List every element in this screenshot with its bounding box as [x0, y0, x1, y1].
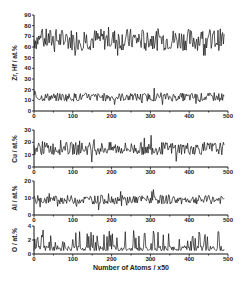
y-tick-label: 10 [24, 195, 31, 201]
x-tick-label: 300 [145, 113, 156, 119]
x-tick-label: 100 [68, 113, 79, 119]
panel-3: 010200100200300400500 [24, 178, 233, 223]
y-tick-label: 60 [24, 44, 31, 50]
series-O [34, 230, 224, 251]
series-Al [34, 190, 224, 210]
y-tick-label: 90 [24, 12, 31, 18]
x-tick-label: 0 [32, 256, 36, 262]
x-tick-label: 300 [145, 217, 156, 223]
y-tick-label: 30 [24, 127, 31, 133]
panel2-ylabel: Cu / at.% [11, 135, 18, 163]
y-tick-label: 0 [28, 164, 32, 170]
x-tick-label: 400 [184, 217, 195, 223]
x-tick-label: 0 [32, 217, 36, 223]
x-tick-label: 300 [145, 256, 156, 262]
y-tick-label: 20 [24, 139, 31, 145]
x-tick-label: 200 [107, 256, 118, 262]
x-tick-label: 500 [223, 256, 234, 262]
y-tick-label: 0 [28, 212, 32, 218]
y-tick-label: 70 [24, 33, 31, 39]
x-tick-label: 500 [223, 113, 234, 119]
x-tick-label: 100 [68, 169, 79, 175]
y-tick-label: 20 [24, 87, 31, 93]
x-tick-label: 300 [145, 169, 156, 175]
series-Cu [34, 135, 224, 162]
y-tick-label: 30 [24, 76, 31, 82]
y-tick-label: 10 [24, 97, 31, 103]
y-tick-label: 4 [28, 223, 32, 229]
panel-2: 01020300100200300400500 [24, 127, 233, 175]
x-axis-label: Number of Atoms / x50 [93, 264, 169, 271]
x-tick-label: 400 [184, 256, 195, 262]
x-tick-label: 100 [68, 217, 79, 223]
y-tick-label: 10 [24, 152, 31, 158]
y-tick-label: 0 [28, 251, 32, 257]
y-tick-label: 0 [28, 108, 32, 114]
y-tick-label: 50 [24, 55, 31, 61]
y-tick-label: 40 [24, 65, 31, 71]
x-tick-label: 400 [184, 169, 195, 175]
x-tick-label: 0 [32, 113, 36, 119]
y-tick-label: 20 [24, 178, 31, 184]
panel4-ylabel: O / at.% [11, 228, 18, 252]
figure: 0102030405060708090010020030040050001020… [0, 0, 246, 289]
x-tick-label: 200 [107, 217, 118, 223]
y-tick-label: 2 [28, 237, 32, 243]
panel1-ylabel: Zr, Hf / at.% [11, 45, 19, 81]
x-tick-label: 200 [107, 169, 118, 175]
x-tick-label: 0 [32, 169, 36, 175]
x-tick-label: 100 [68, 256, 79, 262]
x-tick-label: 500 [223, 169, 234, 175]
x-tick-label: 500 [223, 217, 234, 223]
x-tick-label: 400 [184, 113, 195, 119]
series-Hf [34, 88, 224, 105]
panel3-ylabel: Al / at.% [11, 185, 18, 211]
series-Zr [34, 27, 224, 56]
y-tick-label: 80 [24, 23, 31, 29]
x-tick-label: 200 [107, 113, 118, 119]
panel-1: 01020304050607080900100200300400500 [24, 12, 233, 119]
panel-4: 0240100200300400500 [28, 223, 234, 262]
